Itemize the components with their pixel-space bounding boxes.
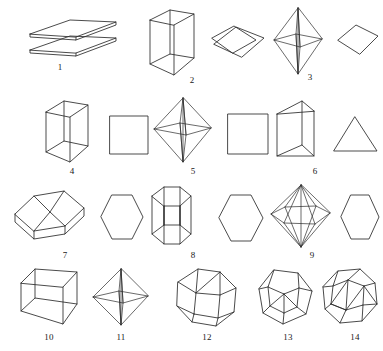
hexagonal-prism-columnar-body	[152, 187, 191, 244]
triangle-section-6	[334, 117, 377, 151]
rhombus-section-2	[214, 27, 264, 57]
figure-8-number: 8	[178, 250, 208, 260]
hexagonal-dipyramid-body	[271, 185, 330, 247]
figure-12-drawing	[172, 266, 240, 330]
tetragonal-prism-body	[150, 10, 194, 75]
figure-2-section-drawing	[212, 24, 268, 60]
hexagon-section-8	[219, 195, 263, 241]
figure-11-number: 11	[106, 332, 136, 342]
figure-6-section-drawing	[332, 114, 380, 154]
hexagon-section-7	[101, 195, 143, 239]
figure-6-number: 6	[300, 166, 330, 176]
figure-3-drawing	[270, 6, 328, 78]
figure-7-drawing	[12, 186, 88, 248]
cube-body	[21, 269, 77, 324]
figure-11-drawing	[90, 266, 152, 328]
square-section-5	[228, 114, 268, 154]
figure-3-section-drawing	[336, 22, 380, 58]
figure-4-section-drawing	[108, 114, 152, 156]
figure-5-number: 5	[178, 166, 208, 176]
figure-plate: 1 2	[0, 0, 383, 351]
figure-7-number: 7	[50, 250, 80, 260]
figure-5-drawing	[150, 96, 216, 164]
figure-1-drawing	[26, 12, 122, 62]
figure-2-drawing	[144, 8, 206, 78]
figure-5-section-drawing	[226, 112, 272, 156]
figure-12-number: 12	[192, 332, 222, 342]
tetragonal-dipyramid-elongated-body	[274, 8, 322, 74]
pentagonal-dodecahedron-body	[259, 270, 312, 324]
figure-3-number: 3	[295, 72, 325, 82]
octahedron-body	[93, 269, 148, 325]
figure-8-drawing	[146, 184, 196, 250]
figure-10-drawing	[18, 266, 80, 328]
rhombus-section-3	[338, 25, 378, 54]
figure-13-number: 13	[273, 332, 303, 342]
hexagon-section-9	[341, 195, 379, 239]
figure-4-drawing	[42, 98, 96, 166]
figure-9-number: 9	[297, 250, 327, 260]
rhombic-dodecahedron-body	[177, 269, 236, 326]
figure-7-section-drawing	[98, 192, 146, 242]
figure-8-section-drawing	[216, 192, 266, 244]
tetragonal-prism-square-body	[46, 101, 88, 162]
figure-13-drawing	[254, 266, 316, 328]
hexagonal-prism-tabular-body	[15, 191, 84, 239]
figure-9-drawing	[268, 182, 334, 250]
square-section-4	[110, 116, 148, 154]
figure-10-number: 10	[34, 332, 64, 342]
figure-6-drawing	[272, 98, 322, 166]
figure-2-number: 2	[177, 75, 207, 85]
figure-14-drawing	[320, 266, 380, 328]
tetragonal-dipyramid-body	[154, 98, 211, 162]
figure-14-number: 14	[340, 332, 370, 342]
parallel-plate-lower	[30, 36, 116, 56]
trapezohedron-body	[323, 269, 377, 323]
figure-4-number: 4	[57, 166, 87, 176]
figure-1-number: 1	[45, 62, 75, 72]
parallel-plate-upper	[30, 20, 116, 40]
figure-9-section-drawing	[338, 192, 382, 242]
trigonal-prism-body	[277, 101, 314, 156]
